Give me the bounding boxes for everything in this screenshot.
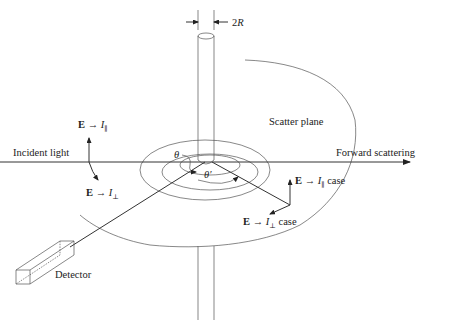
theta-label: θ (174, 149, 179, 160)
incident-parallel-label: E → I∥ (78, 119, 108, 133)
scattered-parallel-label: E → I∥ case (295, 175, 346, 189)
incident-light-label: Incident light (13, 147, 69, 158)
scattered-perp-arrow (270, 205, 290, 214)
scatter-plane-ellipse (80, 60, 356, 247)
theta-prime-label: θ′ (204, 169, 212, 180)
detector-label: Detector (55, 269, 92, 280)
incident-perp-arrow (89, 162, 98, 180)
scattered-perp-label: E → I⊥ case (243, 216, 297, 230)
forward-scattering-label: Forward scattering (336, 147, 416, 158)
incident-perp-label: E → I⊥ (86, 187, 119, 201)
detector-ray (70, 162, 205, 247)
scatter-plane-label: Scatter plane (269, 116, 324, 127)
fiber-top (198, 33, 214, 39)
scattering-diagram: 2R Detector θ θ′ Incident light Forward … (0, 0, 450, 320)
diameter-label: 2R (232, 17, 244, 28)
